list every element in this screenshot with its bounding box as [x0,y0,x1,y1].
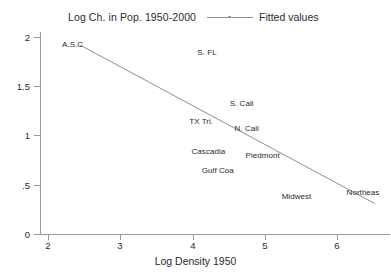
scatter-point-label: Piedmont [245,151,279,160]
x-axis-title: Log Density 1950 [0,255,391,267]
scatter-plot-figure: Log Ch. in Pop. 1950-2000 Fitted values … [0,0,391,279]
scatter-point-label: Gulf Coa [202,166,234,175]
scatter-point-label: TX Tri. [189,117,213,126]
scatter-points-layer: A.S.CS. FLS. CaliTX Tri.N. CaliCascadiaP… [0,0,391,243]
scatter-point-label: Cascadia [192,147,226,156]
scatter-point-label: N. Cali [235,124,259,133]
scatter-point-label: S. FL [197,48,216,57]
scatter-point-label: S. Cali [230,99,254,108]
scatter-point-label: Midwest [282,192,312,201]
scatter-point-label: Northeas [347,188,380,197]
scatter-point-label: A.S.C [62,40,83,49]
